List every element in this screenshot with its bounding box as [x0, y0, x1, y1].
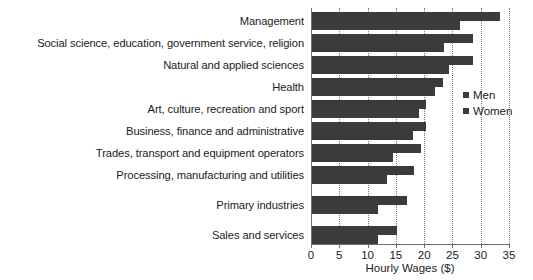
- gridline-25: [452, 8, 453, 244]
- x-tick-label: 20: [418, 249, 431, 261]
- bar: [312, 65, 449, 74]
- x-tick: [509, 244, 510, 248]
- x-axis-title: Hourly Wages ($): [311, 262, 509, 274]
- legend-label-women: Women: [473, 105, 512, 117]
- bar: [312, 34, 473, 43]
- x-tick: [481, 244, 482, 248]
- gridline-30: [481, 8, 482, 244]
- bar: [312, 21, 460, 30]
- x-tick-label: 0: [308, 249, 314, 261]
- category-label: Natural and applied sciences: [163, 59, 304, 71]
- bar: [312, 78, 443, 87]
- x-tick-label: 15: [389, 249, 402, 261]
- x-tick-label: 25: [446, 249, 459, 261]
- x-tick-label: 10: [361, 249, 374, 261]
- bar: [312, 43, 444, 52]
- x-tick: [396, 244, 397, 248]
- category-label: Business, finance and administrative: [126, 125, 304, 137]
- x-tick-label: 30: [474, 249, 487, 261]
- x-axis-line: [311, 244, 509, 245]
- legend-swatch-women-icon: [463, 108, 469, 114]
- x-tick: [452, 244, 453, 248]
- category-label: Sales and services: [212, 229, 304, 241]
- category-label: Health: [272, 81, 304, 93]
- x-tick: [311, 244, 312, 248]
- bar: [312, 153, 393, 162]
- category-label: Processing, manufacturing and utilities: [116, 169, 304, 181]
- x-tick-label: 35: [503, 249, 516, 261]
- x-tick: [339, 244, 340, 248]
- category-label: Art, culture, recreation and sport: [148, 103, 304, 115]
- bar: [312, 109, 419, 118]
- bar: [312, 144, 421, 153]
- legend-label-men: Men: [473, 89, 495, 101]
- gridline-35: [509, 8, 510, 244]
- x-tick: [424, 244, 425, 248]
- bar: [312, 196, 407, 205]
- category-label: Management: [240, 15, 304, 27]
- horizontal-bar-chart: ManagementSocial science, education, gov…: [0, 0, 533, 280]
- bar: [312, 100, 426, 109]
- category-label: Primary industries: [216, 199, 304, 211]
- bar: [312, 235, 378, 244]
- bar: [312, 56, 473, 65]
- bar: [312, 122, 426, 131]
- bar: [312, 87, 435, 96]
- x-tick: [368, 244, 369, 248]
- bar: [312, 226, 397, 235]
- bar: [312, 12, 500, 21]
- category-label: Trades, transport and equipment operator…: [96, 147, 304, 159]
- bar: [312, 205, 378, 214]
- chart-legend: Men Women: [463, 88, 512, 120]
- plot-area: [311, 8, 509, 244]
- legend-item-women[interactable]: Women: [463, 104, 512, 118]
- bar: [312, 131, 413, 140]
- legend-swatch-men-icon: [463, 92, 469, 98]
- category-axis-labels: ManagementSocial science, education, gov…: [0, 0, 308, 244]
- bar: [312, 175, 387, 184]
- category-label: Social science, education, government se…: [37, 37, 304, 49]
- x-tick-label: 5: [336, 249, 342, 261]
- legend-item-men[interactable]: Men: [463, 88, 512, 102]
- bar: [312, 166, 414, 175]
